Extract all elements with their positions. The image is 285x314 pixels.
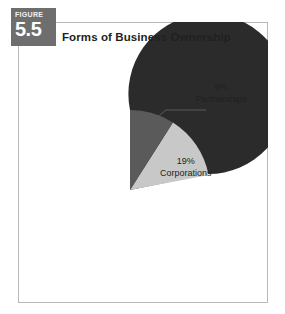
slice-name-sole-proprietorships: Sole Proprietorships — [63, 239, 144, 251]
slice-percent-corporations: 19% — [160, 156, 212, 168]
slice-percent-partnerships: 9% — [196, 82, 247, 94]
page-title: Forms of Business Ownership — [62, 31, 231, 43]
slice-name-partnerships: Partnerships — [196, 94, 247, 106]
figure-number-badge: FIGURE 5.5 — [11, 8, 56, 46]
figure-number-label: 5.5 — [15, 19, 56, 40]
slice-percent-sole-proprietorships: 72% — [63, 227, 144, 239]
slice-label-sole-proprietorships: 72% Sole Proprietorships — [63, 227, 144, 250]
pie-chart-svg — [18, 22, 268, 303]
slice-label-partnerships: 9% Partnerships — [196, 82, 247, 105]
slice-name-corporations: Corporations — [160, 168, 212, 180]
slice-label-corporations: 19% Corporations — [160, 156, 212, 179]
figure-container: FIGURE 5.5 Forms of Business Ownership 9… — [0, 0, 285, 314]
pie-chart: 9% Partnerships 19% Corporations 72% Sol… — [18, 22, 268, 303]
